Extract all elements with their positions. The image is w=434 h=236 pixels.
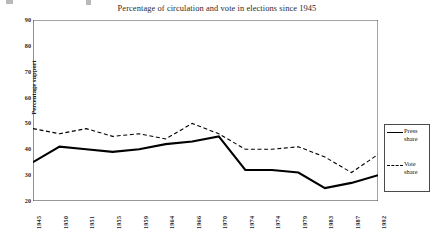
y-tick-label-50: 50 <box>15 120 31 126</box>
x-tick-label-11: 1983 <box>327 216 334 229</box>
chart-figure: Percentage of circulation and vote in el… <box>0 0 434 236</box>
y-tick-label-90: 90 <box>15 17 31 23</box>
x-axis-tick-labels: 1945195019511955195919641966197019741974… <box>33 203 378 236</box>
x-tick-label-9: 1974 <box>274 216 281 229</box>
x-tick-label-6: 1966 <box>195 216 202 229</box>
plot-area <box>33 20 378 201</box>
x-tick-label-8: 1974 <box>248 216 255 229</box>
legend-swatch-dashed-line-icon <box>387 165 403 168</box>
x-tick-label-5: 1964 <box>168 216 175 229</box>
x-tick-label-4: 1959 <box>142 216 149 229</box>
series-line-vote-share <box>33 123 378 172</box>
x-tick-label-2: 1951 <box>88 216 95 229</box>
y-tick-label-80: 80 <box>15 43 31 49</box>
legend-entry-vote-share: Vote share <box>385 160 431 190</box>
x-tick-label-13: 1992 <box>380 216 387 229</box>
axis-lines <box>33 20 378 201</box>
legend-swatch-solid-line-icon <box>387 132 403 135</box>
legend-entry-press-share: Press share <box>385 127 431 157</box>
y-tick-label-70: 70 <box>15 69 31 75</box>
x-tick-label-0: 1945 <box>35 216 42 229</box>
y-tick-label-60: 60 <box>15 95 31 101</box>
legend-label-press-share: Press share <box>404 127 430 142</box>
y-tick-label-30: 30 <box>15 172 31 178</box>
legend-label-vote-share: Vote share <box>404 160 430 175</box>
chart-legend: Press share Vote share <box>384 124 430 192</box>
x-tick-label-3: 1955 <box>115 216 122 229</box>
data-series-layer <box>33 123 378 188</box>
y-axis-tick-labels: 2030405060708090 <box>13 20 31 201</box>
x-tick-label-10: 1979 <box>301 216 308 229</box>
y-tick-label-20: 20 <box>15 198 31 204</box>
x-tick-label-1: 1950 <box>62 216 69 229</box>
plot-svg <box>33 20 378 201</box>
x-tick-label-12: 1987 <box>354 216 361 229</box>
y-tick-label-40: 40 <box>15 146 31 152</box>
series-line-press-share <box>33 136 378 188</box>
x-tick-label-7: 1970 <box>221 216 228 229</box>
chart-title: Percentage of circulation and vote in el… <box>0 4 434 13</box>
